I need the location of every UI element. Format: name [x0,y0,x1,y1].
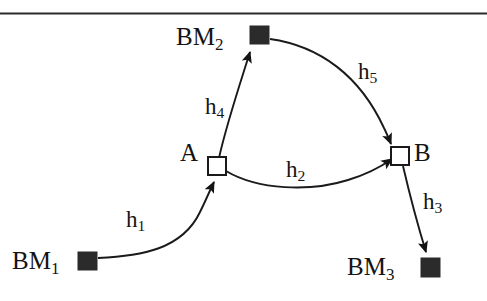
node-marker-bm2 [250,26,269,44]
node-marker-bm3 [421,258,440,277]
node-label-a: A [180,140,198,165]
edge-path-h2 [226,159,392,187]
edge-label-h5-text: h [358,59,370,84]
node-label-bm1: BM1 [12,248,59,277]
node-label-bm2-text: BM [176,23,215,50]
node-label-b-text: B [414,139,431,166]
edge-label-h5: h5 [358,60,377,86]
edge-label-h1-text: h [126,207,138,232]
edge-label-h2: h2 [286,158,305,184]
edge-label-h3-subscript: 3 [435,199,443,216]
edge-path-h1 [98,182,214,258]
node-label-a-text: A [180,139,198,166]
edge-label-h2-subscript: 2 [298,167,306,184]
edge-label-h4-subscript: 4 [217,104,225,121]
edge-label-h5-subscript: 5 [370,69,378,86]
edge-label-h4: h4 [205,95,224,121]
node-label-bm1-subscript: 1 [51,259,60,278]
edge-label-h4-text: h [205,94,217,119]
node-label-bm1-text: BM [12,247,51,274]
node-label-bm2: BM2 [176,24,223,53]
node-marker-a [208,157,226,175]
edge-label-h1: h1 [126,208,145,234]
edge-label-h2-text: h [286,157,298,182]
node-label-bm2-subscript: 2 [215,35,224,54]
edge-path-h5 [270,39,391,144]
edge-label-h3: h3 [423,190,442,216]
figure-canvas: BM1 BM2 BM3 A B h1 h2 h3 h4 h5 [0,0,487,301]
edge-label-h3-text: h [423,189,435,214]
edge-label-h1-subscript: 1 [138,217,146,234]
node-marker-b [391,147,409,165]
node-label-bm3: BM3 [347,254,394,283]
node-label-bm3-subscript: 3 [386,265,395,284]
node-label-bm3-text: BM [347,253,386,280]
node-label-b: B [414,140,431,165]
node-marker-bm1 [78,252,97,270]
